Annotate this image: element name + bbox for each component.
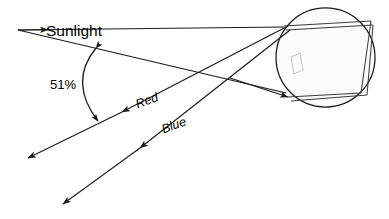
sunlight-label: Sunlight (46, 23, 102, 39)
angle-arc-51 (83, 48, 98, 121)
red-ray-continuation (28, 112, 122, 158)
ray-entering-drop-arrow (230, 78, 288, 97)
raindrop-refraction-diagram: Sunlight 51% Red Blue (0, 0, 389, 219)
angle-value-label: 51% (50, 78, 76, 91)
blue-ray-continuation (63, 148, 140, 204)
